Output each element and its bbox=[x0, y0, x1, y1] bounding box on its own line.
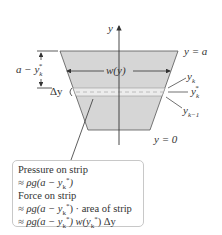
leader-yk-minus-1 bbox=[166, 97, 182, 108]
label-yk-minus-1: yk−1 bbox=[182, 104, 199, 119]
label-y-equals-a: y = a bbox=[183, 45, 208, 57]
width-label: w(y) bbox=[106, 64, 126, 77]
label-y-equals-0: y = 0 bbox=[153, 133, 178, 145]
callout-pressure-heading: Pressure on strip bbox=[18, 163, 138, 176]
label-yk-star: yk* bbox=[190, 84, 200, 100]
label-yk: yk bbox=[186, 70, 196, 85]
callout-box: Pressure on strip ≈ ρg(a − yk*) Force on… bbox=[12, 160, 144, 227]
callout-force-formula-2: ≈ ρg(a − yk*) w(yk*) Δy bbox=[18, 215, 138, 228]
callout-pressure-formula: ≈ ρg(a − yk*) bbox=[18, 176, 138, 189]
callout-force-heading: Force on strip bbox=[18, 189, 138, 202]
depth-label: a − yk* bbox=[16, 62, 43, 78]
callout-force-formula-1: ≈ ρg(a − yk*) · area of strip bbox=[18, 202, 138, 215]
y-axis-label: y bbox=[107, 22, 113, 34]
delta-y-label: Δy bbox=[50, 85, 63, 97]
leader-yk bbox=[168, 78, 186, 88]
delta-y-brace bbox=[70, 88, 72, 96]
